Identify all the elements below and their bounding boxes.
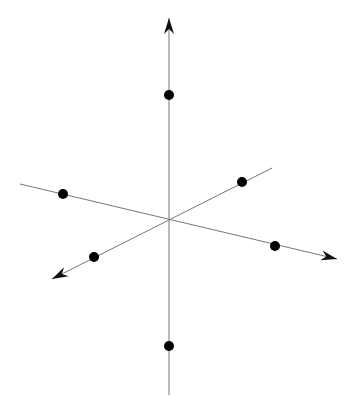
coordinate-axes-diagram [0,0,358,409]
arrowheads [52,18,337,279]
point-top [164,90,174,100]
point-left-lower [89,252,99,262]
point-bottom [164,341,174,351]
axes [20,18,337,395]
point-right-lower [270,241,280,251]
point-right-upper [237,177,247,187]
point-left-upper [58,189,68,199]
arrowhead-icon [52,267,69,279]
